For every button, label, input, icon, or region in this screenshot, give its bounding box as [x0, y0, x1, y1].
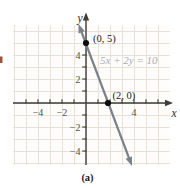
y-axis-arrow-icon — [83, 13, 89, 21]
point-dot-0-5 — [83, 40, 89, 46]
y-tick-label-neg4: −4 — [70, 146, 81, 157]
x-tick-label-neg2: −2 — [57, 107, 68, 118]
equation-label: 5x + 2y = 10 — [100, 54, 158, 66]
y-axis-label: y — [76, 12, 83, 25]
point-label-0-5: (0, 5) — [93, 33, 116, 45]
graph-canvas: −4 −2 4 4 2 −2 −4 y x (0, 5) (2, 0) 5x +… — [0, 0, 180, 188]
point-label-2-0: (2, 0) — [113, 90, 136, 102]
y-tick-label-4: 4 — [76, 50, 81, 61]
y-tick-label-neg2: −2 — [70, 122, 81, 133]
x-tick-label-neg4: −4 — [33, 107, 44, 118]
x-axis-label: x — [171, 107, 178, 119]
point-dot-2-0 — [105, 100, 111, 106]
figure-line-graph: −4 −2 4 4 2 −2 −4 y x (0, 5) (2, 0) 5x +… — [0, 0, 180, 188]
page-edge-mark — [0, 57, 3, 64]
y-tick-label-2: 2 — [76, 74, 81, 85]
figure-caption: (a) — [81, 172, 94, 184]
grid-lines — [13, 25, 170, 165]
x-tick-label-4: 4 — [132, 107, 137, 118]
